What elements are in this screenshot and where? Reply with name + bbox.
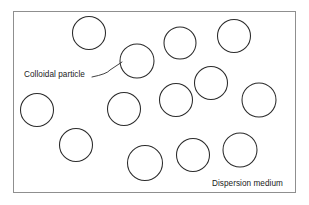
diagram-canvas (0, 0, 309, 205)
colloid-diagram-figure: Colloidal particle Dispersion medium (0, 0, 309, 205)
colloidal-particle-label: Colloidal particle (24, 71, 85, 79)
dispersion-medium-label: Dispersion medium (212, 180, 283, 188)
dispersion-medium-frame (14, 12, 296, 193)
